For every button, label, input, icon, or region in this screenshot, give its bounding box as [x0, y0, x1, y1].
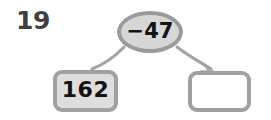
worksheet-problem-figure: 19 −47 162 — [0, 0, 271, 120]
arrow-from-operation-to-answer — [177, 47, 211, 69]
operation-label: −47 — [127, 21, 174, 42]
operation-node: −47 — [117, 11, 183, 53]
arrow-from-input-to-operation — [92, 47, 124, 69]
question-number: 19 — [16, 8, 50, 33]
input-value-label: 162 — [62, 79, 109, 101]
input-value-box: 162 — [53, 70, 118, 112]
answer-input-box[interactable] — [188, 71, 251, 112]
